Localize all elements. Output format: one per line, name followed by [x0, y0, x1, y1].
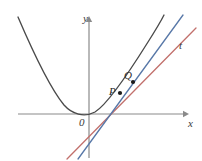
tangent-line: [67, 28, 196, 159]
tangent-line-label: t: [179, 40, 182, 51]
graph-canvas: [0, 0, 202, 161]
x-axis: [18, 111, 189, 117]
point-p-label: P: [109, 86, 116, 97]
point-p-marker: [118, 91, 122, 95]
point-q-label: Q: [124, 70, 132, 81]
parabola-curve: [18, 15, 164, 115]
x-axis-label: x: [188, 118, 193, 129]
figure-container: y x 0 P Q t: [0, 0, 202, 161]
secant-line: [78, 15, 183, 159]
y-axis-label: y: [83, 13, 88, 24]
origin-label: 0: [79, 117, 85, 128]
